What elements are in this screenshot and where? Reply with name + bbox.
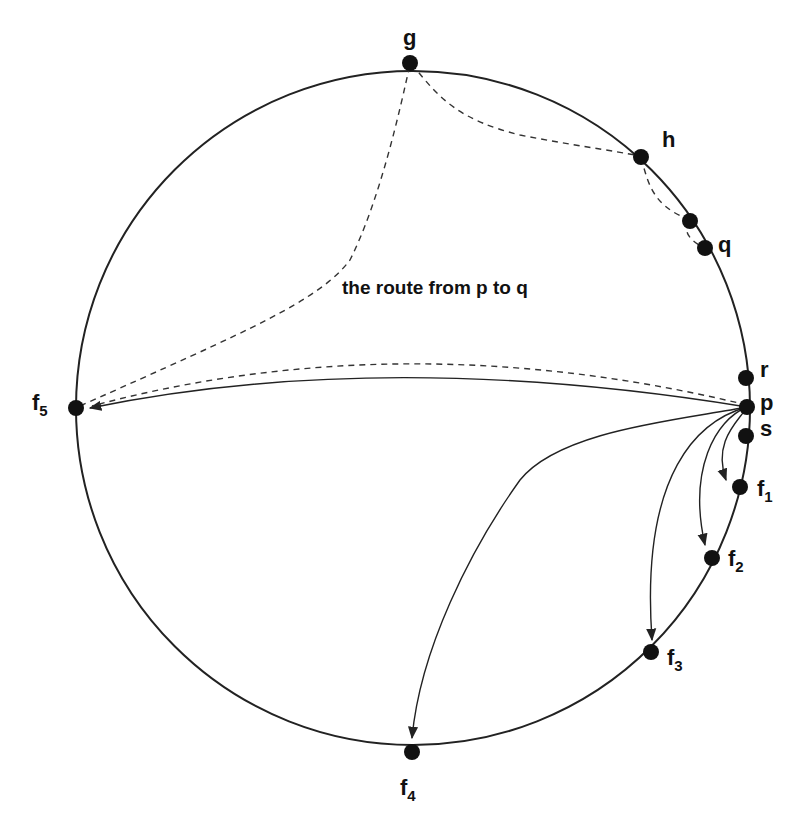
node-f5 <box>68 400 84 416</box>
route-g-h <box>412 64 640 156</box>
label-f2: f2 <box>728 546 744 575</box>
label-f3: f3 <box>667 645 683 674</box>
node-f3 <box>643 644 659 660</box>
node-h <box>633 149 649 165</box>
node-p <box>739 399 755 415</box>
route-caption: the route from p to q <box>342 277 528 298</box>
node-f1 <box>732 479 748 495</box>
node-mid <box>682 213 698 229</box>
label-r: r <box>760 357 769 382</box>
edge-p-f5 <box>90 377 747 408</box>
label-s: s <box>760 416 772 441</box>
route-p-f5 <box>92 364 747 406</box>
node-r <box>738 370 754 386</box>
node-s <box>738 428 754 444</box>
ring-circle <box>76 71 750 745</box>
label-f5: f5 <box>32 390 48 419</box>
label-q: q <box>718 232 731 257</box>
label-f1: f1 <box>757 476 773 505</box>
label-f4: f4 <box>400 775 416 804</box>
node-f4 <box>404 744 420 760</box>
edge-p-f4 <box>412 407 747 738</box>
node-f2 <box>704 550 720 566</box>
label-g: g <box>403 25 416 50</box>
ring-diagram: g h q r p s f1 f2 f3 f4 f5 the route fro… <box>0 0 807 834</box>
node-q <box>697 240 713 256</box>
label-h: h <box>662 127 675 152</box>
label-p: p <box>760 390 773 415</box>
edge-p-f3 <box>650 407 747 640</box>
node-g <box>402 55 418 71</box>
